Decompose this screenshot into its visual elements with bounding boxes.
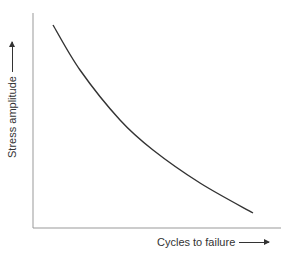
x-axis-label-text: Cycles to failure — [157, 236, 235, 248]
y-axis-label-text: Stress amplitude — [6, 76, 18, 158]
y-axis-label: Stress amplitude — [6, 42, 18, 158]
chart-canvas — [0, 0, 294, 257]
sn-curve — [53, 25, 253, 213]
arrow-up-icon — [12, 42, 13, 72]
arrow-right-icon — [239, 242, 269, 243]
x-axis-label: Cycles to failure — [157, 236, 269, 248]
